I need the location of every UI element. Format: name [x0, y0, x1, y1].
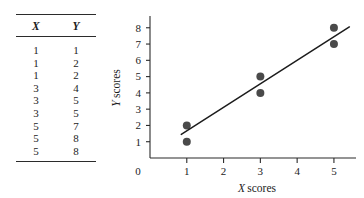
- table-row: 57: [16, 120, 96, 133]
- y-tick-label: 2: [136, 119, 142, 131]
- table-body: 111212343535575858: [16, 37, 96, 161]
- x-tick-label: 2: [221, 165, 227, 177]
- scatter-plot: 12345678 12345 0 X scores Y scores: [104, 6, 362, 198]
- x-tick-label: 1: [184, 165, 190, 177]
- x-tick-label: 3: [258, 165, 264, 177]
- table-cell-y: 8: [56, 132, 96, 145]
- data-points: [183, 24, 338, 146]
- table-cell-y: 8: [56, 145, 96, 158]
- y-tick-label: 6: [136, 54, 142, 66]
- table-cell-y: 2: [56, 57, 96, 70]
- y-tick-label: 7: [136, 38, 142, 50]
- x-axis-ticks: 12345: [184, 158, 337, 177]
- table-column-header-x: X: [16, 20, 56, 32]
- table-row: 34: [16, 82, 96, 95]
- data-table: X Y 111212343535575858: [16, 14, 96, 162]
- y-tick-label: 8: [136, 22, 142, 34]
- table-row: 58: [16, 145, 96, 158]
- y-tick-label: 1: [136, 136, 142, 148]
- table-cell-x: 1: [16, 44, 56, 57]
- y-tick-label: 3: [136, 103, 142, 115]
- table-cell-x: 3: [16, 107, 56, 120]
- table-column-header-y: Y: [56, 20, 96, 32]
- table-cell-x: 1: [16, 57, 56, 70]
- table-cell-x: 5: [16, 132, 56, 145]
- table-rule-bottom: [16, 161, 96, 162]
- table-row: 58: [16, 132, 96, 145]
- table-cell-y: 4: [56, 82, 96, 95]
- origin-tick-label: 0: [135, 165, 141, 177]
- table-cell-x: 3: [16, 82, 56, 95]
- x-tick-label: 5: [331, 165, 337, 177]
- y-axis-title: Y scores: [110, 69, 122, 107]
- data-point: [330, 24, 338, 32]
- y-tick-label: 4: [136, 87, 142, 99]
- y-axis-ticks: 12345678: [136, 22, 151, 148]
- table-cell-x: 3: [16, 94, 56, 107]
- y-tick-label: 5: [136, 70, 142, 82]
- table-cell-y: 5: [56, 107, 96, 120]
- table-cell-y: 5: [56, 94, 96, 107]
- table-row: 35: [16, 94, 96, 107]
- figure-root: X Y 111212343535575858 12345678 12345 0 …: [0, 0, 364, 198]
- data-point: [256, 73, 264, 81]
- table-cell-x: 5: [16, 120, 56, 133]
- table-cell-y: 2: [56, 69, 96, 82]
- x-tick-label: 4: [294, 165, 300, 177]
- data-point: [183, 138, 191, 146]
- table-header-row: X Y: [16, 15, 96, 36]
- table-row: 12: [16, 57, 96, 70]
- table-cell-y: 1: [56, 44, 96, 57]
- table-row: 35: [16, 107, 96, 120]
- regression-line: [181, 27, 349, 134]
- scatter-plot-svg: 12345678 12345 0 X scores Y scores: [104, 6, 362, 198]
- x-axis-title: X scores: [237, 182, 277, 194]
- table-row: 12: [16, 69, 96, 82]
- table-cell-x: 1: [16, 69, 56, 82]
- table-row: 11: [16, 44, 96, 57]
- data-point: [256, 89, 264, 97]
- data-point: [330, 40, 338, 48]
- table-cell-y: 7: [56, 120, 96, 133]
- table-cell-x: 5: [16, 145, 56, 158]
